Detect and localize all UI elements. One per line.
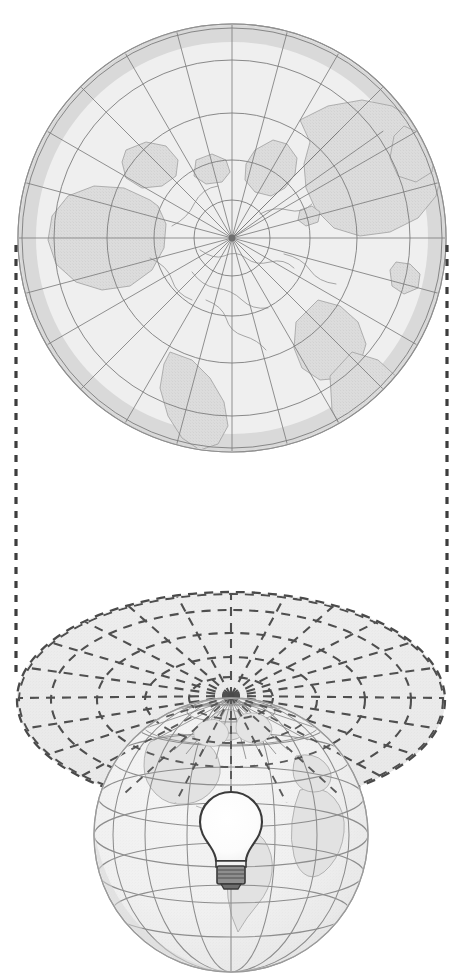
azimuthal-projection-figure: Azimuthal (planar) map projection constr… <box>0 0 462 977</box>
bulb-screw-base <box>217 866 245 889</box>
projected-polar-map <box>18 24 446 452</box>
map-content <box>18 24 446 452</box>
map-north-pole-point <box>229 235 236 242</box>
bulb-contact-tip <box>221 884 241 889</box>
projection-diagram-svg <box>0 0 462 977</box>
